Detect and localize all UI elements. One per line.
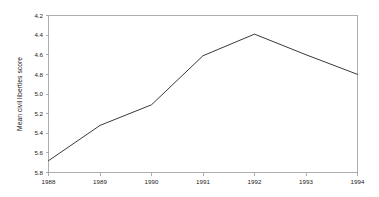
y-tick-label-5.4: 5.4 <box>34 129 43 136</box>
x-axis-ticks <box>49 173 358 176</box>
y-tick-label-5.8: 5.8 <box>34 169 43 176</box>
y-tick-label-5.6: 5.6 <box>34 149 43 156</box>
x-tick-label-1991: 1991 <box>196 178 210 185</box>
y-tick-label-4.2: 4.2 <box>34 12 43 19</box>
y-axis-title: Mean civil liberties score <box>16 57 23 131</box>
y-axis-ticks <box>46 16 49 173</box>
y-tick-label-4.4: 4.4 <box>34 31 43 38</box>
x-tick-label-1989: 1989 <box>93 178 107 185</box>
x-tick-label-1988: 1988 <box>42 178 56 185</box>
frame-border <box>49 16 358 173</box>
data-series-line <box>49 34 358 161</box>
x-axis-labels: 1988 1989 1990 1991 1992 1993 1994 <box>42 178 365 185</box>
line-chart: 4.2 4.4 4.6 4.8 5.0 5.2 5.4 5.6 5.8 1988… <box>0 0 379 197</box>
x-tick-label-1990: 1990 <box>145 178 159 185</box>
y-tick-label-4.6: 4.6 <box>34 51 43 58</box>
x-tick-label-1994: 1994 <box>351 178 365 185</box>
y-tick-label-5.2: 5.2 <box>34 110 43 117</box>
x-tick-label-1992: 1992 <box>248 178 262 185</box>
x-tick-label-1993: 1993 <box>299 178 313 185</box>
y-tick-label-4.8: 4.8 <box>34 71 43 78</box>
y-axis-labels: 4.2 4.4 4.6 4.8 5.0 5.2 5.4 5.6 5.8 <box>34 12 43 176</box>
plot-frame <box>49 16 358 173</box>
y-tick-label-5.0: 5.0 <box>34 90 43 97</box>
chart-figure: 4.2 4.4 4.6 4.8 5.0 5.2 5.4 5.6 5.8 1988… <box>0 0 379 197</box>
